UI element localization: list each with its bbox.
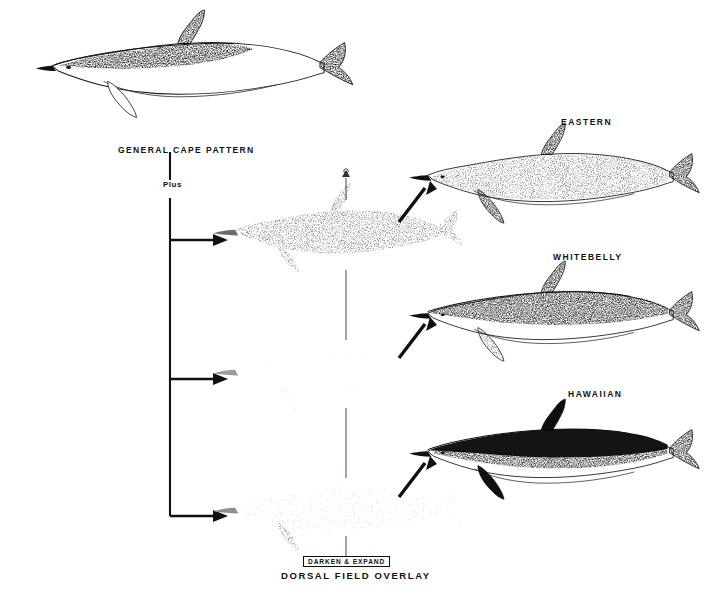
label-general-cape-pattern: GENERAL CAPE PATTERN — [118, 145, 255, 155]
result-dolphin-hawaiian — [409, 399, 699, 499]
overlay-dark-silhouette — [213, 183, 463, 273]
figure-vector-layer — [0, 0, 711, 602]
result-dolphin-eastern — [409, 123, 699, 223]
result-arrow-hawaiian — [399, 456, 437, 497]
label-darken-and-expand: DARKEN & EXPAND — [303, 556, 390, 567]
branch-arrow-2 — [170, 373, 228, 385]
figure-canvas: GENERAL CAPE PATTERN Plus EASTERN WHITEB… — [0, 0, 711, 602]
label-whitebelly: WHITEBELLY — [553, 252, 622, 262]
label-plus: Plus — [163, 180, 182, 189]
specimen-general-cape-pattern — [36, 10, 353, 118]
branch-arrow-1 — [170, 234, 228, 246]
label-eastern: EASTERN — [561, 117, 612, 127]
result-arrow-whitebelly — [399, 317, 437, 358]
label-hawaiian: HAWAIIAN — [568, 389, 623, 399]
overlay-faint-silhouette — [213, 323, 463, 413]
result-arrow-eastern — [399, 181, 437, 222]
label-dorsal-field-overlay: DORSAL FIELD OVERLAY — [281, 570, 431, 581]
result-dolphin-whitebelly — [409, 261, 699, 361]
overlay-medium-silhouette — [213, 461, 463, 551]
